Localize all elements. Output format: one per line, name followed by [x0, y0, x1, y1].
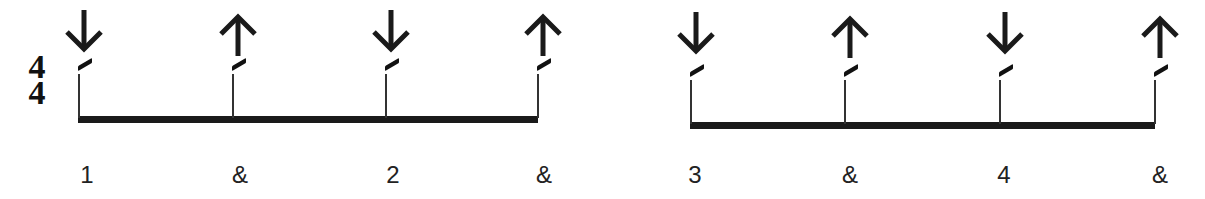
- slash-notehead: [232, 58, 246, 71]
- beat-count-label: &: [536, 163, 552, 187]
- slash-notehead: [999, 64, 1013, 77]
- up-arrow-icon: [523, 12, 563, 58]
- note-stem: [232, 74, 234, 118]
- slash-notehead: [78, 58, 92, 71]
- beat-count-label: 1: [80, 163, 93, 187]
- time-signature-bottom: 4: [22, 80, 52, 106]
- up-arrow-icon: [1140, 14, 1180, 60]
- note-stem: [690, 80, 692, 124]
- note-stem: [537, 74, 539, 118]
- slash-notehead: [690, 64, 704, 77]
- time-signature: 4 4: [22, 54, 52, 106]
- beat-count-label: 3: [688, 163, 701, 187]
- slash-notehead: [844, 64, 858, 77]
- note-stem: [78, 74, 80, 118]
- down-arrow-icon: [676, 10, 716, 56]
- slash-notehead: [385, 58, 399, 71]
- measure-1-beam: [78, 116, 538, 123]
- note-stem: [385, 74, 387, 118]
- slash-notehead: [1154, 64, 1168, 77]
- beat-count-label: 4: [997, 163, 1010, 187]
- up-arrow-icon: [830, 14, 870, 60]
- down-arrow-icon: [64, 8, 104, 54]
- down-arrow-icon: [371, 8, 411, 54]
- slash-notehead: [537, 58, 551, 71]
- note-stem: [844, 80, 846, 124]
- beat-count-label: &: [232, 163, 248, 187]
- measure-2-beam: [690, 122, 1155, 129]
- note-stem: [1154, 80, 1156, 124]
- note-stem: [999, 80, 1001, 124]
- down-arrow-icon: [985, 10, 1025, 56]
- up-arrow-icon: [218, 12, 258, 58]
- beat-count-label: 2: [386, 163, 399, 187]
- beat-count-label: &: [842, 163, 858, 187]
- beat-count-label: &: [1152, 163, 1168, 187]
